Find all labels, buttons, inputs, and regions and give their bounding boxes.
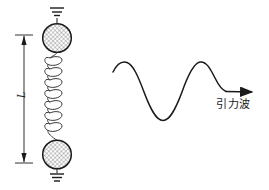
spring-coil <box>45 53 62 141</box>
gravitational-wave-label: 引力波 <box>216 98 251 111</box>
top-mass-sphere <box>43 24 72 53</box>
bottom-mass-sphere <box>43 140 72 169</box>
length-dimension-label: L <box>12 87 30 103</box>
figure-canvas: L 引力波 <box>0 0 269 190</box>
wave-curve <box>113 62 252 121</box>
figure-drawing <box>0 0 269 190</box>
ground-symbol-top <box>50 8 64 23</box>
ground-symbol-bottom <box>50 169 64 181</box>
